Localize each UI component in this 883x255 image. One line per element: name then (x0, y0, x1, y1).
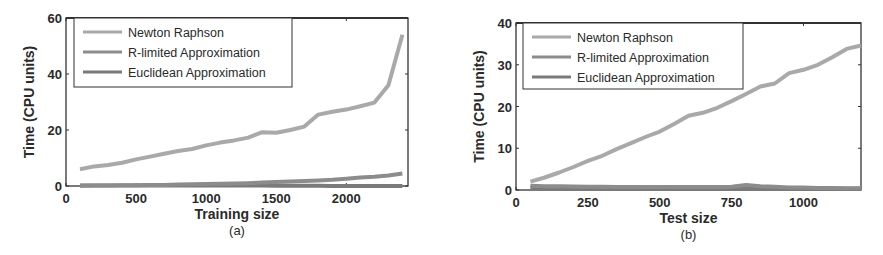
x-tick-label: 0 (62, 191, 69, 206)
x-tick-label: 0 (512, 195, 519, 210)
y-tick-label: 40 (498, 16, 512, 31)
legend-label: Newton Raphson (128, 26, 224, 40)
x-tick-label: 500 (125, 191, 147, 206)
y-tick-label: 30 (498, 58, 512, 73)
y-tick-label: 0 (505, 183, 512, 198)
y-axis-label: Time (CPU units) (21, 46, 37, 159)
x-tick-label: 250 (577, 195, 599, 210)
y-tick-label: 10 (498, 141, 512, 156)
legend-label: Euclidean Approximation (577, 71, 715, 85)
chart-panel-a: 05001000150020000204060Newton RaphsonR-l… (0, 0, 440, 255)
chart-panel-b: 02505007501000010203040Newton RaphsonR-l… (440, 0, 883, 255)
y-tick-label: 20 (48, 123, 62, 138)
x-axis-label: Test size (659, 210, 717, 226)
series-line (80, 173, 402, 185)
x-axis-label: Training size (195, 206, 280, 222)
panel-caption: (a) (229, 223, 245, 238)
line-chart-training-size: 05001000150020000204060Newton RaphsonR-l… (0, 0, 440, 255)
y-tick-label: 0 (55, 179, 62, 194)
x-tick-label: 750 (721, 195, 743, 210)
x-tick-label: 500 (649, 195, 671, 210)
y-tick-label: 60 (48, 11, 62, 26)
legend-label: R-limited Approximation (577, 51, 709, 65)
y-axis-label: Time (CPU units) (471, 50, 487, 163)
line-chart-test-size: 02505007501000010203040Newton RaphsonR-l… (440, 0, 883, 255)
x-tick-label: 1000 (192, 191, 221, 206)
series-line (530, 185, 861, 188)
panel-caption: (b) (681, 227, 697, 242)
legend-label: Euclidean Approximation (128, 66, 266, 80)
y-tick-label: 40 (48, 67, 62, 82)
legend-label: R-limited Approximation (128, 46, 260, 60)
y-tick-label: 20 (498, 100, 512, 115)
x-tick-label: 2000 (332, 191, 361, 206)
legend-label: Newton Raphson (577, 31, 673, 45)
x-tick-label: 1000 (789, 195, 818, 210)
x-tick-label: 1500 (262, 191, 291, 206)
